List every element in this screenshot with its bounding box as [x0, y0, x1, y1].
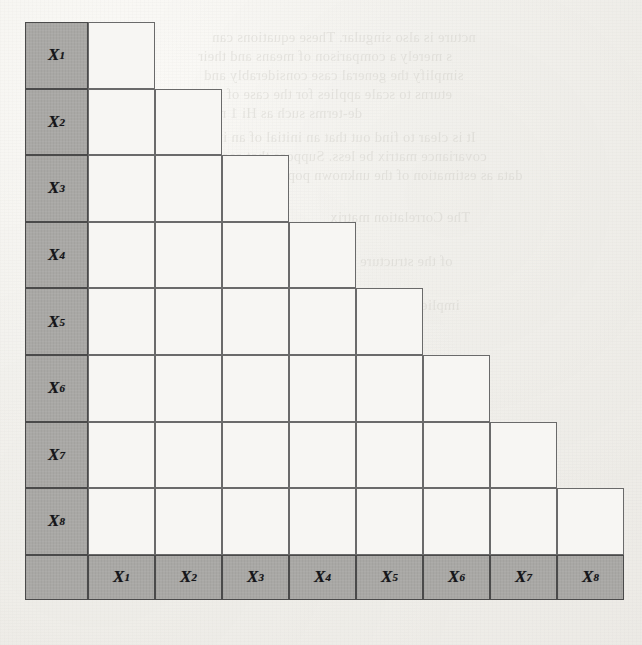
lower-triangular-matrix-figure: X1X2X3X4X5X6X7X8X1X2X3X4X5X6X7X8 [25, 22, 625, 600]
matrix-cell [356, 422, 423, 489]
matrix-cell [490, 422, 557, 489]
variable-symbol: X [48, 112, 59, 132]
matrix-cell [88, 89, 155, 156]
column-header-cell: X6 [423, 555, 490, 600]
column-header-cell: X2 [155, 555, 222, 600]
column-header-label: X4 [290, 556, 355, 599]
matrix-cell [222, 155, 289, 222]
column-header-label: X6 [424, 556, 489, 599]
matrix-cell [155, 422, 222, 489]
matrix-cell [88, 355, 155, 422]
variable-subscript: 3 [60, 182, 66, 194]
variable-symbol: X [515, 567, 526, 587]
matrix-cell [356, 288, 423, 355]
variable-subscript: 4 [60, 249, 66, 261]
matrix-cell [289, 222, 356, 289]
variable-subscript: 1 [60, 49, 66, 61]
matrix-cell [155, 488, 222, 555]
variable-symbol: X [448, 567, 459, 587]
matrix-cell [222, 288, 289, 355]
matrix-cell [222, 222, 289, 289]
column-header-label: X8 [558, 556, 623, 599]
variable-subscript: 5 [393, 571, 399, 583]
column-header-cell: X3 [222, 555, 289, 600]
column-header-label: X5 [357, 556, 422, 599]
variable-symbol: X [381, 567, 392, 587]
column-header-cell: X4 [289, 555, 356, 600]
row-header-label: X4 [26, 223, 87, 288]
variable-subscript: 8 [60, 515, 66, 527]
variable-subscript: 3 [259, 571, 265, 583]
row-header-cell: X2 [25, 89, 88, 156]
matrix-cell [88, 222, 155, 289]
matrix-cell [289, 288, 356, 355]
row-header-label: X8 [26, 489, 87, 554]
row-header-cell: X8 [25, 488, 88, 555]
variable-symbol: X [48, 445, 59, 465]
variable-subscript: 7 [527, 571, 533, 583]
variable-subscript: 8 [594, 571, 600, 583]
matrix-cell [88, 488, 155, 555]
matrix-cell [88, 422, 155, 489]
matrix-cell [155, 89, 222, 156]
column-header-label: X1 [89, 556, 154, 599]
matrix-cell [155, 355, 222, 422]
corner-cell [25, 555, 88, 600]
row-header-cell: X6 [25, 355, 88, 422]
matrix-cell [88, 288, 155, 355]
row-header-cell: X4 [25, 222, 88, 289]
matrix-cell [88, 22, 155, 89]
matrix-cell [289, 422, 356, 489]
variable-symbol: X [48, 378, 59, 398]
matrix-cell [356, 488, 423, 555]
matrix-cell [289, 355, 356, 422]
matrix-cell [155, 222, 222, 289]
row-header-label: X3 [26, 156, 87, 221]
matrix-cell [222, 488, 289, 555]
variable-subscript: 5 [60, 316, 66, 328]
variable-symbol: X [113, 567, 124, 587]
variable-symbol: X [48, 312, 59, 332]
variable-symbol: X [48, 245, 59, 265]
variable-symbol: X [247, 567, 258, 587]
variable-subscript: 4 [326, 571, 332, 583]
variable-symbol: X [180, 567, 191, 587]
matrix-cell [356, 355, 423, 422]
column-header-cell: X1 [88, 555, 155, 600]
variable-subscript: 1 [125, 571, 131, 583]
column-header-cell: X7 [490, 555, 557, 600]
row-header-label: X7 [26, 423, 87, 488]
column-header-label: X3 [223, 556, 288, 599]
row-header-cell: X7 [25, 422, 88, 489]
matrix-cell [289, 488, 356, 555]
matrix-cell [155, 155, 222, 222]
matrix-cell [423, 355, 490, 422]
variable-subscript: 2 [60, 116, 66, 128]
column-header-cell: X5 [356, 555, 423, 600]
row-header-cell: X5 [25, 288, 88, 355]
row-header-label: X2 [26, 90, 87, 155]
matrix-cell [423, 422, 490, 489]
matrix-cell [155, 288, 222, 355]
matrix-cell [88, 155, 155, 222]
matrix-cell [423, 488, 490, 555]
row-header-label: X1 [26, 23, 87, 88]
variable-symbol: X [48, 45, 59, 65]
matrix-cell [222, 355, 289, 422]
matrix-cell [490, 488, 557, 555]
variable-subscript: 6 [60, 382, 66, 394]
variable-symbol: X [314, 567, 325, 587]
row-header-cell: X1 [25, 22, 88, 89]
variable-subscript: 6 [460, 571, 466, 583]
matrix-cell [222, 422, 289, 489]
variable-subscript: 7 [60, 449, 66, 461]
row-header-label: X6 [26, 356, 87, 421]
row-header-cell: X3 [25, 155, 88, 222]
column-header-label: X7 [491, 556, 556, 599]
matrix-cell [557, 488, 624, 555]
column-header-label: X2 [156, 556, 221, 599]
variable-symbol: X [48, 178, 59, 198]
column-header-cell: X8 [557, 555, 624, 600]
variable-subscript: 2 [192, 571, 198, 583]
variable-symbol: X [582, 567, 593, 587]
